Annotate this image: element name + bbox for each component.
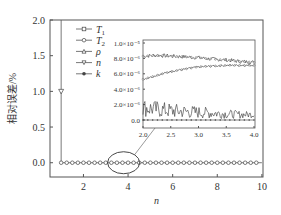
inset-data-point: [210, 119, 212, 121]
data-point: [93, 161, 97, 165]
inset-data-point: [176, 119, 178, 121]
data-point: [115, 161, 119, 165]
data-point: [176, 161, 180, 165]
inset-data-point: [157, 54, 159, 56]
inset-data-point: [253, 61, 255, 63]
inset-data-point: [166, 72, 168, 74]
data-point: [238, 161, 242, 165]
legend-label: ρ: [95, 46, 101, 57]
data-point: [87, 161, 91, 165]
chart: 2468100.00.51.01.52.0 T1T2ρnk 2.02.53.03…: [0, 0, 281, 215]
inset-data-point: [181, 119, 183, 121]
inset-y-tick-label: 2.0×10⁻⁶: [114, 101, 141, 109]
inset-data-point: [248, 61, 250, 63]
x-tick-label: 2: [81, 181, 86, 192]
inset-data-point: [190, 119, 192, 121]
legend-label: k: [96, 68, 101, 79]
inset-data-point: [166, 119, 168, 121]
data-point: [65, 161, 69, 165]
x-tick-label: 6: [170, 181, 175, 192]
inset-data-point: [229, 119, 231, 121]
legend-marker: [82, 27, 86, 31]
data-point: [165, 161, 169, 165]
legend-marker: [82, 38, 86, 42]
data-point: [210, 161, 214, 165]
data-point: [76, 161, 80, 165]
inset-data-point: [224, 59, 226, 61]
data-point: [199, 161, 203, 165]
data-point: [182, 161, 186, 165]
y-tick-label: 1.5: [33, 50, 46, 61]
data-point: [110, 161, 114, 165]
inset-data-point: [200, 119, 202, 121]
y-tick-label: 2.0: [33, 15, 46, 26]
inset-plot: 2.02.53.03.54.00.02.0×10⁻⁶4.0×10⁻⁶6.0×10…: [114, 40, 259, 140]
data-point: [98, 161, 102, 165]
y-axis-label: 相对误差/%: [6, 73, 18, 124]
inset-data-point: [205, 66, 207, 68]
inset-x-tick-label: 3.5: [222, 131, 231, 139]
data-point: [154, 161, 158, 165]
data-point: [160, 161, 164, 165]
data-point: [227, 161, 231, 165]
inset-data-point: [229, 64, 231, 66]
inset-data-point: [161, 55, 163, 57]
inset-data-point: [248, 119, 250, 121]
data-point: [215, 161, 219, 165]
inset-data-point: [195, 66, 197, 68]
y-tick-label: 0.0: [33, 157, 46, 168]
data-point: [188, 161, 192, 165]
inset-data-point: [214, 58, 216, 60]
data-point: [243, 161, 247, 165]
inset-data-point: [243, 61, 245, 63]
x-axis-label: n: [154, 195, 159, 206]
inset-x-tick-label: 3.0: [194, 131, 203, 139]
inset-data-point: [234, 119, 236, 121]
data-point: [171, 161, 175, 165]
inset-data-point: [157, 74, 159, 76]
inset-data-point: [176, 70, 178, 72]
legend-item: ρ: [76, 46, 101, 57]
inset-data-point: [219, 59, 221, 61]
y-tick-label: 1.0: [33, 86, 46, 97]
legend-subscript: 2: [102, 40, 106, 48]
data-point: [126, 161, 130, 165]
data-point: [255, 161, 259, 165]
legend-subscript: 1: [102, 29, 106, 37]
zoom-annotation: [108, 128, 155, 174]
legend-item: n: [76, 57, 101, 68]
inset-data-point: [243, 64, 245, 66]
inset-x-tick-label: 2.0: [139, 131, 148, 139]
inset-data-point: [219, 119, 221, 121]
inset-data-point: [205, 119, 207, 121]
inset-data-point: [152, 55, 154, 57]
data-point: [132, 161, 136, 165]
inset-data-point: [142, 55, 144, 57]
x-tick-label: 8: [215, 181, 220, 192]
inset-data-point: [195, 119, 197, 121]
inset-data-point: [190, 56, 192, 58]
inset-data-point: [171, 55, 173, 57]
inset-data-point: [215, 119, 217, 121]
data-point: [121, 161, 125, 165]
data-point: [82, 161, 86, 165]
x-tick-label: 10: [257, 181, 267, 192]
inset-data-point: [219, 65, 221, 67]
inset-data-point: [161, 73, 163, 75]
data-point: [59, 161, 63, 165]
inset-y-tick-label: 1.0×10⁻⁵: [114, 40, 141, 48]
inset-data-point: [200, 66, 202, 68]
inset-data-point: [200, 57, 202, 59]
inset-x-tick-label: 2.5: [166, 131, 175, 139]
inset-data-point: [234, 60, 236, 62]
inset-data-point: [224, 64, 226, 66]
inset-data-point: [166, 55, 168, 57]
x-tick-label: 4: [126, 181, 131, 192]
inset-data-point: [152, 76, 154, 78]
inset-data-point: [157, 119, 159, 121]
inset-data-point: [244, 119, 246, 121]
legend: T1T2ρnk: [76, 24, 106, 80]
inset-x-tick-label: 4.0: [250, 131, 259, 139]
inset-data-point: [147, 77, 149, 79]
inset-data-point: [248, 64, 250, 66]
